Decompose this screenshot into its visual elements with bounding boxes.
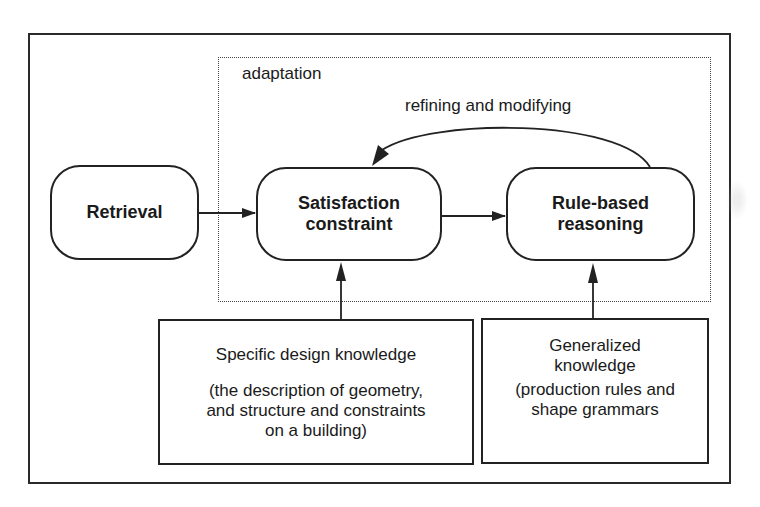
node-rule-line1: Rule-based <box>552 193 649 214</box>
node-retrieval-label: Retrieval <box>86 202 162 223</box>
node-retrieval: Retrieval <box>50 165 199 260</box>
generalized-title-line2: knowledge <box>503 356 687 376</box>
generalized-knowledge-description: (production rules and shape grammars <box>483 380 707 420</box>
generalized-desc-line1: (production rules and <box>495 380 695 400</box>
generalized-knowledge-box: Generalized knowledge (production rules … <box>481 318 709 464</box>
specific-knowledge-title: Specific design knowledge <box>160 345 472 365</box>
specific-desc-line2: and structure and constraints <box>168 401 464 421</box>
specific-design-knowledge-box: Specific design knowledge (the descripti… <box>158 319 474 465</box>
specific-desc-line1: (the description of geometry, <box>168 381 464 401</box>
generalized-title-line1: Generalized <box>503 336 687 356</box>
node-satisfaction-line1: Satisfaction <box>298 193 400 214</box>
generalized-desc-line2: shape grammars <box>495 400 695 420</box>
node-satisfaction-constraint: Satisfaction constraint <box>256 167 442 261</box>
specific-desc-line3: on a building) <box>168 421 464 441</box>
node-satisfaction-line2: constraint <box>298 214 400 235</box>
arrow-refining-loop <box>372 128 650 167</box>
generalized-knowledge-title: Generalized knowledge <box>483 336 707 376</box>
node-rule-line2: reasoning <box>552 214 649 235</box>
arrow-generalized-to-rule <box>588 263 598 318</box>
specific-knowledge-description: (the description of geometry, and struct… <box>160 381 472 441</box>
node-rule-based-reasoning: Rule-based reasoning <box>506 167 695 261</box>
scan-artifact <box>726 180 748 220</box>
arrow-specific-to-satisfaction <box>336 262 346 319</box>
